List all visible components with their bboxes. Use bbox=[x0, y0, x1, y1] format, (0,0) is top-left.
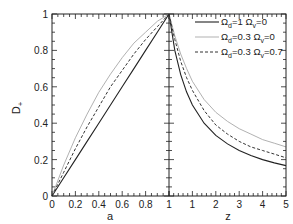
y-tick-label: 0.8 bbox=[34, 45, 48, 56]
legend-entry: Ωd=1 Ωv=0 bbox=[221, 16, 267, 29]
y-tick-label: 0.4 bbox=[34, 118, 48, 129]
x-tick-label-a: 1 bbox=[166, 199, 172, 210]
x-tick-label-z: 3 bbox=[236, 199, 242, 210]
series-line bbox=[52, 14, 169, 196]
y-tick-label: 1 bbox=[42, 9, 48, 20]
y-axis-label: D+ bbox=[10, 101, 25, 114]
x-tick-label-z: 5 bbox=[283, 199, 289, 210]
y-tick-label: 0.2 bbox=[34, 155, 48, 166]
x-tick-label-z: 1 bbox=[190, 199, 196, 210]
x-tick-label-z: 4 bbox=[260, 199, 266, 210]
legend-entry: Ωd=0.3 Ωv=0 bbox=[221, 31, 275, 44]
x-axis-label-left: a bbox=[107, 210, 114, 222]
x-tick-label-z: 2 bbox=[213, 199, 219, 210]
legend: Ωd=1 Ωv=0Ωd=0.3 Ωv=0Ωd=0.3 Ωv=0.7 bbox=[195, 16, 283, 59]
y-tick-label: 0.6 bbox=[34, 82, 48, 93]
x-tick-label-a: 0.4 bbox=[92, 199, 106, 210]
x-tick-label-a: 0.2 bbox=[68, 199, 82, 210]
legend-entry: Ωd=0.3 Ωv=0.7 bbox=[221, 46, 283, 59]
y-tick-label: 0 bbox=[42, 191, 48, 202]
x-tick-labels: 00.20.40.60.8112345 bbox=[49, 199, 289, 210]
y-tick-labels: 00.20.40.60.81 bbox=[34, 9, 48, 202]
x-tick-label-a: 0.8 bbox=[139, 199, 153, 210]
x-tick-label-a: 0 bbox=[49, 199, 55, 210]
growth-factor-chart: 00.20.40.60.81 00.20.40.60.8112345 D+ a … bbox=[0, 0, 293, 224]
x-tick-label-a: 0.6 bbox=[115, 199, 129, 210]
x-axis-label-right: z bbox=[225, 210, 231, 222]
